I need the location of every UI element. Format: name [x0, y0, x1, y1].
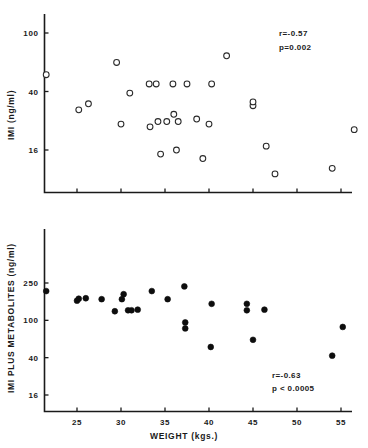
- chart-panel-bottom: 2501004016 25303540455055 IMI PLUS METAB…: [0, 215, 368, 448]
- data-point: [76, 296, 82, 302]
- data-point: [174, 147, 180, 153]
- data-point: [86, 101, 92, 107]
- data-point: [206, 121, 212, 127]
- data-point: [224, 53, 230, 59]
- y-tick-label: 40: [28, 88, 38, 97]
- bottom-x-ticks: 25303540455055: [72, 408, 346, 427]
- top-scatter-plot: 1004016 IMI (ng/ml) r=-0.57 p=0.002: [0, 0, 368, 215]
- data-point: [158, 151, 164, 157]
- data-point: [209, 81, 215, 87]
- y-tick-label: 100: [23, 29, 38, 38]
- data-point: [171, 111, 177, 117]
- data-point: [155, 119, 161, 125]
- data-point: [175, 119, 181, 125]
- data-point: [182, 320, 188, 326]
- data-point: [184, 81, 190, 87]
- x-tick-label: 45: [248, 418, 258, 427]
- top-pvalue-annotation: p=0.002: [279, 43, 312, 52]
- chart-panel-top: 1004016 IMI (ng/ml) r=-0.57 p=0.002: [0, 0, 368, 215]
- data-point: [147, 124, 153, 130]
- bottom-x-axis-title: WEIGHT (kgs.): [150, 431, 218, 441]
- bottom-scatter-plot: 2501004016 25303540455055 IMI PLUS METAB…: [0, 215, 368, 448]
- data-point: [121, 291, 127, 297]
- data-point: [209, 301, 215, 307]
- data-point: [112, 308, 118, 314]
- data-point: [208, 344, 214, 350]
- data-point: [182, 326, 188, 332]
- data-point: [135, 307, 141, 313]
- data-point: [329, 353, 335, 359]
- x-tick-label: 40: [204, 418, 214, 427]
- data-point: [129, 307, 135, 313]
- x-tick-label: 50: [292, 418, 302, 427]
- data-point: [250, 337, 256, 343]
- data-point: [114, 60, 120, 66]
- x-tick-label: 55: [336, 418, 346, 427]
- bottom-correlation-annotation: r=-0.63: [272, 371, 301, 380]
- y-tick-label: 40: [28, 354, 38, 363]
- y-tick-label: 16: [28, 146, 38, 155]
- data-point: [99, 296, 105, 302]
- y-tick-label: 250: [23, 279, 38, 288]
- data-point: [340, 324, 346, 330]
- data-point: [244, 301, 250, 307]
- data-point: [244, 307, 250, 313]
- data-point: [250, 99, 256, 105]
- data-point: [272, 171, 278, 177]
- data-point: [43, 72, 49, 78]
- data-point: [83, 295, 89, 301]
- y-tick-label: 100: [23, 316, 38, 325]
- x-tick-label: 35: [160, 418, 170, 427]
- data-point: [43, 288, 49, 294]
- data-point: [165, 296, 171, 302]
- data-point: [329, 165, 335, 171]
- figure-container: 1004016 IMI (ng/ml) r=-0.57 p=0.002 2501…: [0, 0, 368, 448]
- bottom-data-points: [43, 283, 345, 358]
- x-tick-label: 25: [72, 418, 82, 427]
- top-data-points: [43, 53, 357, 177]
- data-point: [118, 121, 124, 127]
- y-tick-label: 16: [28, 391, 38, 400]
- data-point: [194, 116, 200, 122]
- data-point: [351, 127, 357, 133]
- bottom-pvalue-annotation: p < 0.0005: [272, 384, 315, 393]
- top-correlation-annotation: r=-0.57: [279, 29, 308, 38]
- x-tick-label: 30: [116, 418, 126, 427]
- data-point: [146, 81, 152, 87]
- data-point: [263, 143, 269, 149]
- data-point: [200, 156, 206, 162]
- data-point: [181, 283, 187, 289]
- data-point: [262, 307, 268, 313]
- data-point: [164, 119, 170, 125]
- data-point: [153, 81, 159, 87]
- data-point: [170, 81, 176, 87]
- data-point: [149, 288, 155, 294]
- data-point: [76, 107, 82, 113]
- data-point: [127, 90, 133, 96]
- top-y-axis-title: IMI (ng/ml): [6, 90, 16, 140]
- bottom-y-axis-title: IMI PLUS METABOLITES (ng/ml): [6, 243, 16, 393]
